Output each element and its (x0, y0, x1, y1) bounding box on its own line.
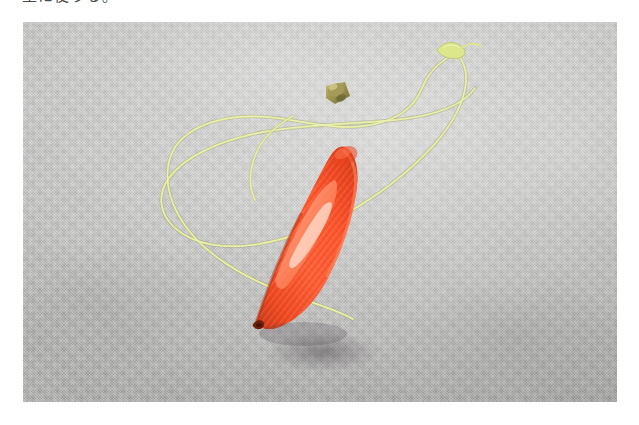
scene-svg (23, 22, 617, 402)
bob-contact-shadow (259, 322, 347, 346)
cord-loose-end-knot (437, 43, 481, 59)
brass-cap-ferrule (326, 81, 350, 104)
photo-scene (23, 22, 617, 402)
caption-text: 主に使うる。 (22, 0, 118, 5)
plumb-bob-photograph (23, 22, 617, 402)
caption-strip: 主に使うる。 (0, 0, 639, 14)
plumb-bob-body (253, 142, 361, 329)
